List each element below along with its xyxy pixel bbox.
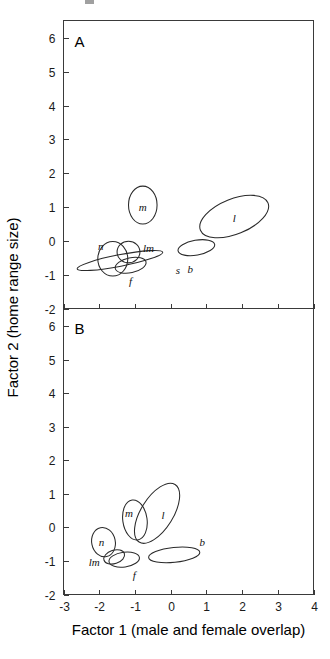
- ellipse-A-b: [177, 237, 216, 258]
- x-tick-label-0: 0: [168, 600, 175, 614]
- x-axis-title: Factor 1 (male and female overlap): [72, 621, 305, 638]
- y-tick-label-A--2: -2: [45, 303, 56, 317]
- x-tick-label-4: 4: [311, 600, 318, 614]
- y-tick-label-A-3: 3: [49, 133, 56, 147]
- y-tick-label-B-0: 0: [49, 521, 56, 535]
- ellipse-B-b: [148, 545, 201, 565]
- y-tick-label-B--2: -2: [45, 589, 56, 603]
- group-label-A-m: m: [139, 201, 147, 213]
- group-label-B-lm: lm: [89, 556, 100, 568]
- group-label-A-l: l: [233, 212, 236, 224]
- group-label-B-l: l: [162, 509, 165, 521]
- y-tick-label-B-1: 1: [49, 488, 56, 502]
- panel-letter-B: B: [75, 320, 85, 337]
- group-label-B-m: m: [125, 507, 133, 519]
- figure-container: -2-10123456Amlbnlmfs-2-10123456-3-2-1012…: [0, 0, 330, 659]
- y-tick-label-B-6: 6: [49, 320, 56, 334]
- y-tick-label-A-1: 1: [49, 201, 56, 215]
- panel-frame-B: [64, 309, 314, 595]
- y-tick-label-A-0: 0: [49, 235, 56, 249]
- y-tick-label-A-2: 2: [49, 167, 56, 181]
- y-tick-label-B--1: -1: [45, 555, 56, 569]
- x-tick-label--1: -1: [130, 600, 141, 614]
- group-label-A-lm: lm: [143, 242, 154, 254]
- two-panel-scatter-chart: -2-10123456Amlbnlmfs-2-10123456-3-2-1012…: [0, 0, 330, 659]
- y-axis-title: Factor 2 (home range size): [4, 217, 21, 397]
- panel-B: -2-10123456-3-2-101234Blmnlmfb: [45, 309, 318, 614]
- y-tick-label-A--1: -1: [45, 269, 56, 283]
- y-tick-label-A-5: 5: [49, 66, 56, 80]
- x-tick-label-1: 1: [203, 600, 210, 614]
- y-tick-label-A-6: 6: [49, 32, 56, 46]
- x-tick-label--2: -2: [94, 600, 105, 614]
- panel-letter-A: A: [75, 33, 85, 50]
- group-label-B-n: n: [99, 536, 105, 548]
- x-tick-label-2: 2: [239, 600, 246, 614]
- y-tick-label-A-4: 4: [49, 100, 56, 114]
- group-label-A-s: s: [176, 264, 180, 276]
- x-tick-label--3: -3: [59, 600, 70, 614]
- y-tick-label-B-5: 5: [49, 354, 56, 368]
- panel-A: -2-10123456Amlbnlmfs: [45, 21, 315, 318]
- y-tick-label-B-4: 4: [49, 387, 56, 401]
- x-tick-label-3: 3: [275, 600, 282, 614]
- group-label-A-b: b: [188, 263, 194, 275]
- group-label-B-f: f: [133, 569, 138, 581]
- group-label-B-b: b: [199, 536, 205, 548]
- group-label-A-n: n: [98, 240, 104, 252]
- y-tick-label-B-3: 3: [49, 421, 56, 435]
- group-label-A-f: f: [129, 275, 134, 287]
- y-tick-label-B-2: 2: [49, 454, 56, 468]
